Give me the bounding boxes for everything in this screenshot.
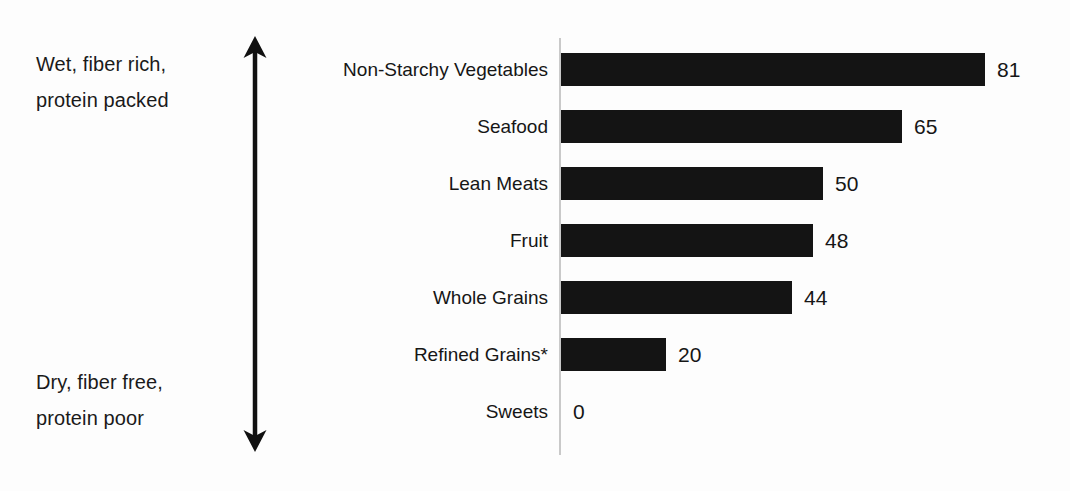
bar [561, 224, 813, 257]
category-label: Lean Meats [449, 167, 548, 200]
category-label: Non-Starchy Vegetables [343, 53, 548, 86]
plot-area: Non-Starchy Vegetables81Seafood65Lean Me… [0, 0, 1070, 491]
chart-canvas: Wet, fiber rich, protein packed Dry, fib… [0, 0, 1070, 491]
bar-value-label: 44 [804, 281, 827, 314]
bar-value-label: 20 [678, 338, 701, 371]
bar-value-label: 50 [835, 167, 858, 200]
bar [561, 338, 666, 371]
bar-value-label: 48 [825, 224, 848, 257]
chart-row: Refined Grains*20 [0, 338, 1070, 371]
chart-row: Fruit48 [0, 224, 1070, 257]
category-label: Whole Grains [433, 281, 548, 314]
category-label: Refined Grains* [414, 338, 548, 371]
chart-row: Non-Starchy Vegetables81 [0, 53, 1070, 86]
bar [561, 53, 985, 86]
category-label: Sweets [486, 395, 548, 428]
bar [561, 110, 902, 143]
chart-row: Sweets0 [0, 395, 1070, 428]
category-label: Fruit [510, 224, 548, 257]
bar-value-label: 0 [573, 395, 585, 428]
bar [561, 167, 823, 200]
bar-value-label: 81 [997, 53, 1020, 86]
category-label: Seafood [477, 110, 548, 143]
bar [561, 281, 792, 314]
chart-row: Whole Grains44 [0, 281, 1070, 314]
chart-row: Lean Meats50 [0, 167, 1070, 200]
chart-row: Seafood65 [0, 110, 1070, 143]
bar-value-label: 65 [914, 110, 937, 143]
